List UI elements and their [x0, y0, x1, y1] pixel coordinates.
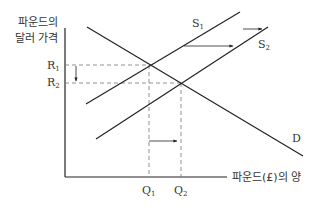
- y-axis-label-line2: 달러 가격: [15, 32, 59, 45]
- y-axis-label-line1: 파운드의: [18, 16, 58, 29]
- supply-demand-diagram: 파운드의 달러 가격 파운드(£)의 양 R1 R2 Q1 Q2 S1 S2 D: [0, 0, 320, 208]
- s1-label: S1: [192, 17, 204, 31]
- s2-label: S2: [258, 38, 270, 52]
- r1-label: R1: [47, 59, 60, 73]
- q1-label: Q1: [142, 184, 156, 198]
- supply-curve-s1: [86, 12, 240, 104]
- x-axis-label: 파운드(£)의 양: [232, 171, 301, 184]
- r2-label: R2: [47, 76, 60, 90]
- q2-label: Q2: [174, 184, 188, 198]
- d-label: D: [292, 132, 301, 145]
